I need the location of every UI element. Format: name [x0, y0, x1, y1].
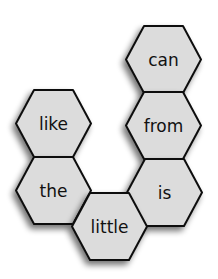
- hexagon-word-label: from: [144, 116, 184, 136]
- hexagon-from: from: [126, 92, 201, 159]
- hexagon-can: can: [126, 26, 201, 93]
- hexagon-like: like: [16, 90, 91, 157]
- hexagon-word-label: can: [148, 50, 179, 70]
- hexagon-word-diagram: canfromliketheislittle: [0, 0, 218, 279]
- hexagon-word-label: the: [40, 181, 68, 201]
- hexagon-word-label: is: [158, 183, 172, 203]
- hexagon-word-label: like: [39, 114, 68, 134]
- hexagon-word-label: little: [91, 217, 129, 237]
